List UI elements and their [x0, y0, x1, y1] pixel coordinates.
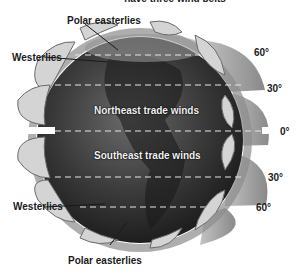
wind-belts-diagram: have three wind belts — [0, 0, 306, 274]
latitude-equator: 0° — [280, 126, 290, 137]
label-westerlies-south: Westerlies — [13, 201, 63, 212]
label-northeast-trade-winds: Northeast trade winds — [94, 105, 199, 116]
label-westerlies-north: Westerlies — [12, 52, 62, 63]
latitude-30-north: 30° — [267, 83, 282, 94]
label-southeast-trade-winds: Southeast trade winds — [94, 150, 201, 161]
label-polar-easterlies-south: Polar easterlies — [68, 255, 142, 266]
latitude-30-south: 30° — [268, 172, 283, 183]
latitude-60-north: 60° — [254, 47, 269, 58]
globe-illustration — [0, 0, 306, 274]
latitude-60-south: 60° — [256, 202, 271, 213]
label-polar-easterlies-north: Polar easterlies — [67, 15, 141, 26]
